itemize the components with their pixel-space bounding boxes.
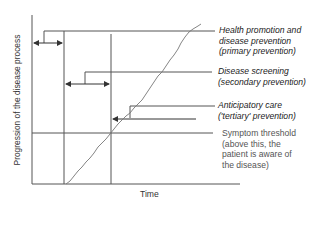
y-axis-label: Progression of the disease process — [12, 35, 22, 166]
secondary-prevention-leader — [85, 72, 212, 84]
primary-line2: disease prevention — [219, 36, 301, 47]
secondary-line1: Disease screening — [218, 66, 306, 77]
tertiary-line1: Anticipatory care — [218, 100, 296, 111]
primary-line1: Health promotion and — [219, 25, 301, 36]
tertiary-prevention-leader — [130, 106, 215, 118]
x-axis-label: Time — [140, 189, 159, 199]
tertiary-line2: ('tertiary' prevention) — [218, 111, 296, 122]
threshold-line4: the disease) — [222, 160, 296, 171]
primary-prevention-leader — [44, 31, 215, 43]
threshold-line2: (above this, the — [222, 139, 296, 150]
symptom-threshold-label: Symptom threshold (above this, the patie… — [222, 128, 296, 170]
disease-progression-curve — [66, 24, 201, 184]
secondary-prevention-label: Disease screening (secondary prevention) — [218, 66, 306, 87]
primary-prevention-label: Health promotion and disease prevention … — [219, 25, 301, 57]
primary-line3: (primary prevention) — [219, 46, 301, 57]
tertiary-prevention-label: Anticipatory care ('tertiary' prevention… — [218, 100, 296, 121]
secondary-line2: (secondary prevention) — [218, 77, 306, 88]
threshold-line3: patient is aware of — [222, 149, 296, 160]
threshold-line1: Symptom threshold — [222, 128, 296, 139]
